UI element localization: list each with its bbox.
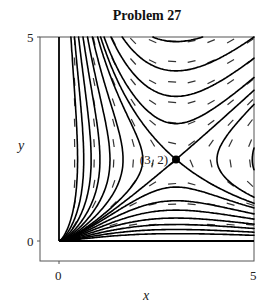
trajectory <box>60 37 84 241</box>
x-tick-label-0: 0 <box>55 268 62 283</box>
direction-dash <box>133 160 134 168</box>
direction-dash <box>168 102 176 103</box>
direction-dash <box>207 40 214 43</box>
trajectory <box>60 37 110 241</box>
direction-dash <box>74 180 75 188</box>
direction-dash <box>188 101 196 103</box>
direction-dash <box>188 204 196 205</box>
direction-dash <box>130 38 136 44</box>
direction-dash <box>149 80 156 84</box>
direction-dash <box>168 184 176 185</box>
direction-dash <box>94 119 95 127</box>
direction-dash <box>188 61 196 63</box>
direction-dash <box>188 183 196 185</box>
direction-dash <box>208 80 215 84</box>
direction-dash <box>168 61 176 62</box>
y-axis-label: y <box>16 138 25 153</box>
direction-dash <box>113 139 114 147</box>
direction-dash <box>230 160 231 168</box>
direction-dash <box>227 203 235 205</box>
direction-dash <box>131 99 135 106</box>
direction-dash <box>229 140 233 147</box>
direction-dash <box>250 160 251 168</box>
direction-dash <box>209 140 214 147</box>
direction-dash <box>149 100 156 104</box>
direction-dash <box>149 60 156 63</box>
trajectory <box>60 37 91 241</box>
equilibrium-point <box>172 155 180 163</box>
trajectories <box>60 37 254 241</box>
direction-dash <box>150 120 156 125</box>
direction-dash <box>227 224 235 225</box>
direction-dash <box>113 119 115 127</box>
direction-dash <box>132 139 134 147</box>
direction-dash <box>249 139 252 146</box>
x-tick-label-5: 5 <box>250 268 257 283</box>
direction-dash <box>188 81 196 83</box>
direction-dash <box>227 39 234 43</box>
direction-dash <box>93 180 94 188</box>
direction-dash <box>248 120 253 126</box>
direction-dash <box>208 100 215 104</box>
direction-dash <box>74 58 75 66</box>
direction-dash <box>130 59 135 65</box>
direction-dash <box>129 224 137 225</box>
direction-dash <box>168 82 176 83</box>
direction-dash <box>247 181 253 187</box>
direction-dash <box>247 100 253 106</box>
direction-dash <box>131 79 136 85</box>
direction-dash <box>149 182 156 186</box>
direction-dash <box>168 142 176 144</box>
plot-frame <box>40 37 254 261</box>
direction-dash <box>228 100 234 105</box>
direction-dash <box>208 120 214 125</box>
direction-dash <box>112 99 115 107</box>
direction-dash <box>190 160 193 167</box>
direction-dash <box>112 180 115 188</box>
direction-dash <box>151 140 155 147</box>
direction-dash <box>210 160 212 168</box>
trajectory <box>60 37 78 241</box>
direction-dash <box>227 59 234 63</box>
equilibrium-label: (3, 2) <box>140 152 168 167</box>
phase-portrait-plot: (3, 2) 5 0 0 5 x y <box>0 0 271 308</box>
direction-dash <box>227 80 234 85</box>
direction-dash <box>94 139 95 147</box>
y-tick-label-0: 0 <box>27 234 34 249</box>
direction-dash <box>228 120 233 126</box>
direction-dash <box>93 78 95 86</box>
direction-dash <box>149 40 156 43</box>
y-tick-label-5: 5 <box>27 30 34 45</box>
x-axis-label: x <box>142 288 150 303</box>
